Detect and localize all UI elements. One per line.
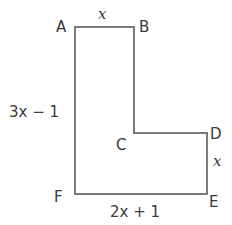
l-shape-outline: [75, 27, 207, 194]
vertex-label-a: A: [56, 18, 67, 36]
vertex-label-d: D: [210, 125, 222, 143]
side-label-ab: x: [98, 5, 107, 23]
side-label-de: x: [213, 152, 222, 170]
side-label-af: 3x − 1: [9, 103, 59, 121]
vertex-label-f: F: [54, 188, 63, 206]
vertex-label-e: E: [209, 193, 218, 211]
side-label-fe: 2x + 1: [110, 203, 160, 221]
l-shape-diagram: A B C D E F x 3x − 1 x 2x + 1: [0, 0, 232, 225]
vertex-label-b: B: [139, 18, 149, 36]
vertex-label-c: C: [116, 136, 126, 154]
